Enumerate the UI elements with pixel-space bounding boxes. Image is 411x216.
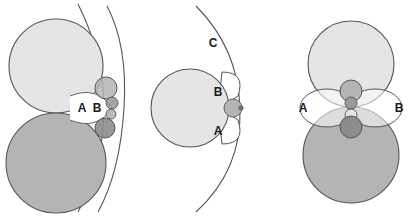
middle-center-dot [238, 105, 243, 110]
left-large-gray-circle [6, 113, 106, 213]
right-label-b: B [395, 101, 404, 115]
middle-label-c: C [209, 36, 218, 50]
right-label-a: A [299, 101, 308, 115]
left-small-circle-4 [95, 118, 115, 138]
left-label-b: B [93, 101, 102, 115]
right-small-circle-2 [345, 97, 357, 109]
circle-tangency-diagram: A B C B A [0, 0, 411, 216]
left-small-circle-1 [95, 77, 117, 99]
left-small-circle-2 [106, 97, 118, 109]
right-small-circle-4 [340, 116, 362, 138]
left-small-circle-3 [106, 109, 116, 119]
right-panel: A B [299, 21, 404, 203]
middle-label-a: A [214, 124, 223, 138]
middle-label-b: B [214, 85, 223, 99]
left-label-a: A [78, 101, 87, 115]
figure-canvas: A B C B A [0, 0, 411, 216]
